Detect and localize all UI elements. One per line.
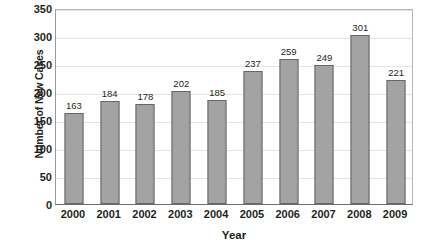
bar-slot: 301 [342,10,378,204]
bar-value-label: 259 [281,46,297,57]
bar-value-label: 301 [352,22,368,33]
bar[interactable] [208,100,227,204]
bar[interactable] [243,71,262,204]
y-axis-tick-labels: 050100150200250300350 [18,0,52,248]
x-tick-label: 2007 [311,208,335,220]
bar-slot: 184 [92,10,128,204]
bar-slot: 221 [378,10,414,204]
y-tick-label: 300 [18,31,52,43]
bar-slot: 178 [128,10,164,204]
y-tick-label: 100 [18,143,52,155]
x-tick-label: 2003 [168,208,192,220]
y-tick-label: 0 [18,199,52,211]
bars-layer: 163184178202185237259249301221 [56,10,412,204]
bar-slot: 202 [163,10,199,204]
bar-chart: Number of New Cases 05010015020025030035… [0,0,424,248]
bar-value-label: 221 [388,67,404,78]
bar[interactable] [172,91,191,204]
x-tick-label: 2008 [347,208,371,220]
x-tick-label: 2004 [204,208,228,220]
bar[interactable] [64,113,83,204]
x-tick-label: 2009 [383,208,407,220]
bar[interactable] [279,59,298,204]
bar-slot: 163 [56,10,92,204]
y-tick-label: 350 [18,3,52,15]
bar[interactable] [315,65,334,204]
bar-value-label: 163 [66,100,82,111]
bar-value-label: 185 [209,87,225,98]
bar-slot: 237 [235,10,271,204]
bar-value-label: 184 [102,88,118,99]
bar-slot: 249 [307,10,343,204]
x-tick-label: 2005 [240,208,264,220]
x-tick-label: 2006 [275,208,299,220]
bar-value-label: 178 [138,91,154,102]
bar-value-label: 202 [173,78,189,89]
bar-slot: 259 [271,10,307,204]
x-tick-label: 2002 [132,208,156,220]
bar-slot: 185 [199,10,235,204]
y-tick-label: 200 [18,87,52,99]
bar[interactable] [100,101,119,204]
bar[interactable] [136,104,155,204]
y-tick-label: 250 [18,59,52,71]
bar[interactable] [351,35,370,204]
y-tick-label: 150 [18,115,52,127]
x-axis-tick-labels: 2000200120022003200420052006200720082009 [55,208,413,226]
bar[interactable] [387,80,406,204]
plot-area: 163184178202185237259249301221 [55,9,413,205]
x-axis-title: Year [55,229,413,241]
y-tick-label: 50 [18,171,52,183]
x-tick-label: 2001 [96,208,120,220]
x-tick-label: 2000 [61,208,85,220]
bar-value-label: 237 [245,58,261,69]
bar-value-label: 249 [317,52,333,63]
